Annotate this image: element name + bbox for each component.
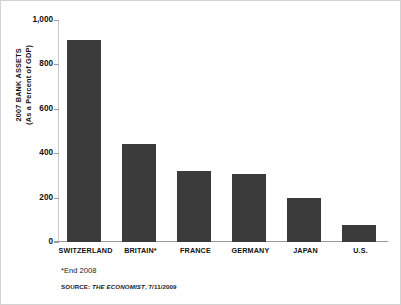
bar-slot bbox=[58, 20, 113, 242]
bar bbox=[122, 144, 156, 242]
source-suffix: , 7/11/2009 bbox=[145, 283, 177, 290]
x-axis-category-labels: SWITZERLANDBRITAIN*FRANCEGERMANYJAPANU.S… bbox=[58, 246, 388, 260]
y-axis-tick-label: 1,000 bbox=[33, 15, 54, 24]
source-publication: THE ECONOMIST bbox=[92, 283, 145, 290]
y-axis-tick-label: 400 bbox=[39, 148, 53, 157]
bar bbox=[342, 225, 376, 242]
y-axis-tick-label: 600 bbox=[39, 104, 53, 113]
y-axis-title-line1: 2007 BANK ASSETS bbox=[14, 48, 23, 122]
bar-slot bbox=[223, 20, 278, 242]
bar bbox=[287, 198, 321, 242]
y-axis-title: 2007 BANK ASSETS (As a Percent of GDP) bbox=[14, 15, 34, 155]
y-axis-title-line2: (As a Percent of GDP) bbox=[24, 15, 34, 155]
bar-slot bbox=[278, 20, 333, 242]
source-prefix: SOURCE: bbox=[61, 283, 92, 290]
bar-slot bbox=[113, 20, 168, 242]
y-axis-tick-label: 200 bbox=[39, 193, 53, 202]
y-axis-tick-label: 800 bbox=[39, 59, 53, 68]
plot-area: 02004006008001,000 bbox=[58, 20, 388, 242]
bar bbox=[232, 174, 266, 242]
bar-slot bbox=[168, 20, 223, 242]
bar-series bbox=[58, 20, 388, 242]
bar bbox=[67, 40, 101, 242]
y-axis-tick-mark bbox=[54, 242, 59, 243]
bar-slot bbox=[333, 20, 388, 242]
chart-figure: 2007 BANK ASSETS (As a Percent of GDP) 0… bbox=[0, 0, 401, 305]
footnote: *End 2008 bbox=[61, 266, 96, 275]
x-axis-category-label: U.S. bbox=[325, 246, 397, 255]
bar bbox=[177, 171, 211, 242]
source-line: SOURCE: THE ECONOMIST, 7/11/2009 bbox=[61, 283, 177, 290]
y-axis-tick-label: 0 bbox=[48, 237, 53, 246]
